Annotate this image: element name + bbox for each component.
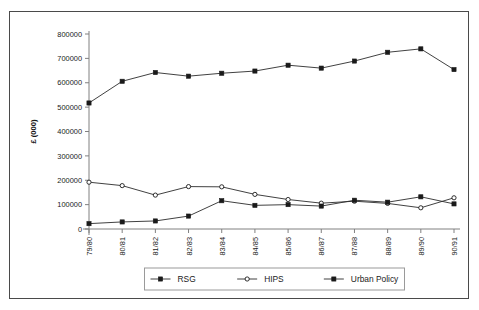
x-tick-label: 90/91 bbox=[450, 237, 459, 256]
line-chart: 0100000200000300000400000500000600000700… bbox=[10, 12, 468, 298]
data-point-marker bbox=[120, 184, 124, 188]
x-tick-label: 83/84 bbox=[218, 237, 227, 256]
series-line bbox=[89, 182, 454, 208]
legend-label: Urban Policy bbox=[351, 274, 399, 284]
data-point-marker bbox=[186, 184, 190, 188]
data-point-marker bbox=[319, 66, 323, 70]
x-tick-label: 82/83 bbox=[185, 237, 194, 256]
data-point-marker bbox=[386, 50, 390, 54]
clipped-header-text bbox=[0, 0, 479, 9]
y-axis-title: £ (000) bbox=[29, 119, 38, 144]
chart-frame: 0100000200000300000400000500000600000700… bbox=[9, 11, 469, 299]
data-point-marker bbox=[286, 63, 290, 67]
legend-item-urban-policy[interactable]: Urban Policy bbox=[324, 274, 399, 284]
data-point-marker bbox=[120, 79, 124, 83]
legend-label: RSG bbox=[178, 274, 196, 284]
data-point-marker bbox=[87, 101, 91, 105]
data-point-marker bbox=[452, 202, 456, 206]
legend-marker-icon bbox=[332, 277, 336, 281]
legend-item-rsg[interactable]: RSG bbox=[151, 274, 196, 284]
data-point-marker bbox=[452, 196, 456, 200]
series-line bbox=[89, 49, 454, 103]
x-tick-label: 79/80 bbox=[85, 237, 94, 256]
data-point-marker bbox=[186, 74, 190, 78]
data-point-marker bbox=[186, 214, 190, 218]
y-tick-label: 200000 bbox=[57, 176, 82, 185]
y-tick-label: 600000 bbox=[57, 78, 82, 87]
data-point-marker bbox=[120, 220, 124, 224]
data-point-marker bbox=[253, 69, 257, 73]
data-point-marker bbox=[220, 71, 224, 75]
data-point-marker bbox=[253, 192, 257, 196]
series-line bbox=[89, 197, 454, 224]
series-urban-policy bbox=[87, 195, 456, 226]
x-tick-label: 86/87 bbox=[317, 237, 326, 256]
x-tick-label: 84/85 bbox=[251, 237, 260, 256]
data-point-marker bbox=[153, 219, 157, 223]
data-point-marker bbox=[419, 206, 423, 210]
x-tick-label: 89/90 bbox=[417, 237, 426, 256]
data-point-marker bbox=[153, 193, 157, 197]
data-point-marker bbox=[87, 222, 91, 226]
figure-container: 0100000200000300000400000500000600000700… bbox=[0, 0, 479, 310]
data-point-marker bbox=[352, 198, 356, 202]
data-point-marker bbox=[419, 195, 423, 199]
x-tick-label: 80/81 bbox=[118, 237, 127, 256]
data-point-marker bbox=[153, 70, 157, 74]
y-tick-label: 400000 bbox=[57, 127, 82, 136]
x-tick-label: 85/86 bbox=[284, 237, 293, 256]
data-point-marker bbox=[220, 199, 224, 203]
data-point-marker bbox=[419, 47, 423, 51]
legend-marker-icon bbox=[245, 277, 249, 281]
data-point-marker bbox=[286, 203, 290, 207]
y-tick-label: 500000 bbox=[57, 103, 82, 112]
data-point-marker bbox=[220, 185, 224, 189]
legend-label: HIPS bbox=[264, 274, 284, 284]
data-point-marker bbox=[352, 59, 356, 63]
series-rsg bbox=[87, 47, 456, 105]
data-point-marker bbox=[386, 200, 390, 204]
data-point-marker bbox=[452, 67, 456, 71]
x-tick-label: 88/89 bbox=[384, 237, 393, 256]
data-point-marker bbox=[286, 197, 290, 201]
data-point-marker bbox=[253, 203, 257, 207]
x-tick-label: 81/82 bbox=[151, 237, 160, 256]
y-tick-label: 700000 bbox=[57, 54, 82, 63]
legend-item-hips[interactable]: HIPS bbox=[237, 274, 284, 284]
x-tick-label: 87/88 bbox=[350, 237, 359, 256]
y-tick-label: 0 bbox=[78, 225, 82, 234]
data-point-marker bbox=[87, 180, 91, 184]
data-point-marker bbox=[319, 204, 323, 208]
y-tick-label: 800000 bbox=[57, 30, 82, 39]
legend-marker-icon bbox=[158, 277, 162, 281]
y-tick-label: 300000 bbox=[57, 152, 82, 161]
y-tick-label: 100000 bbox=[57, 200, 82, 209]
